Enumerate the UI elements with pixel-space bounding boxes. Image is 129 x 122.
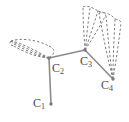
atom-label-c1-element: C: [33, 96, 41, 110]
upper-right-pi-lobe: [83, 6, 106, 50]
atom-label-c3-index: 3: [88, 60, 92, 69]
atom-label-c4-index: 4: [109, 84, 113, 93]
structure-canvas: [0, 0, 129, 122]
atom-dot-c2: [47, 56, 50, 59]
bond-c1-c2: [49, 58, 51, 104]
atom-label-c1: C1: [33, 97, 45, 111]
atom-label-c4-element: C: [101, 78, 109, 92]
atom-label-c1-index: 1: [41, 102, 45, 111]
atom-label-c3: C3: [80, 55, 92, 69]
atom-label-c4: C4: [101, 79, 113, 93]
molecular-orbital-figure: C1 C2 C3 C4: [0, 0, 129, 122]
atom-label-c2-index: 2: [60, 67, 64, 76]
orbital-lobes: [10, 6, 121, 79]
atom-label-c3-element: C: [80, 54, 88, 68]
atom-label-c2-element: C: [52, 61, 60, 75]
atom-label-c2: C2: [52, 62, 64, 76]
atom-dot-c3: [83, 48, 86, 51]
atom-dot-c1: [49, 102, 52, 105]
left-pi-lobe: [10, 39, 54, 58]
